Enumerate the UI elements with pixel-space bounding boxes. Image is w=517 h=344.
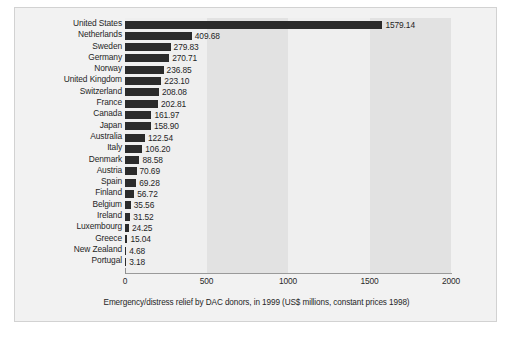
category-label: Canada	[93, 108, 122, 119]
figure-panel: United States1579.14Netherlands409.68Swe…	[14, 7, 497, 322]
bar-value-label: 270.71	[169, 54, 197, 62]
x-axis-line	[125, 273, 452, 274]
bar-with-value: 106.20	[125, 145, 170, 153]
bar-value-label: 56.72	[134, 190, 157, 198]
bar-value-label: 158.90	[151, 122, 179, 130]
bar-with-value: 31.52	[125, 213, 154, 221]
bar	[125, 43, 171, 51]
y-axis-tick	[125, 268, 126, 274]
category-label: Sweden	[92, 41, 122, 52]
bar-value-label: 35.56	[131, 201, 154, 209]
bar-value-label: 4.68	[126, 247, 145, 255]
bar-row: New Zealand4.68	[15, 245, 498, 256]
bar-row: Germany270.71	[15, 53, 498, 64]
bar-row: Portugal3.18	[15, 256, 498, 267]
bar	[125, 66, 164, 74]
bar	[125, 111, 151, 119]
bar-row: Spain69.28	[15, 177, 498, 188]
bar	[125, 190, 134, 198]
bar	[125, 54, 169, 62]
bar	[125, 167, 137, 175]
bar-value-label: 88.58	[139, 156, 162, 164]
bar-row: Belgium35.56	[15, 200, 498, 211]
category-label: Austria	[97, 165, 122, 176]
category-label: Denmark	[89, 154, 122, 165]
bar-with-value: 279.83	[125, 43, 199, 51]
bar	[125, 179, 136, 187]
bar-with-value: 158.90	[125, 122, 179, 130]
category-label: Greece	[95, 233, 122, 244]
bar-with-value: 69.28	[125, 179, 160, 187]
bar-value-label: 1579.14	[382, 21, 415, 29]
category-label: France	[97, 97, 122, 108]
bar-value-label: 106.20	[142, 145, 170, 153]
bar-with-value: 1579.14	[125, 21, 415, 29]
category-label: United Kingdom	[64, 74, 122, 85]
bar-row: Canada161.97	[15, 109, 498, 120]
bar-rows: United States1579.14Netherlands409.68Swe…	[15, 19, 498, 268]
bar-with-value: 202.81	[125, 100, 186, 108]
bar-value-label: 279.83	[171, 43, 199, 51]
bar	[125, 100, 158, 108]
bar	[125, 77, 161, 85]
bar-row: Italy106.20	[15, 143, 498, 154]
x-axis-tick-label: 2000	[442, 276, 460, 286]
bar-with-value: 270.71	[125, 54, 197, 62]
bar-row: Japan158.90	[15, 121, 498, 132]
bar-with-value: 70.69	[125, 167, 160, 175]
bar-value-label: 223.10	[161, 77, 189, 85]
category-label: Japan	[100, 120, 122, 131]
bar	[125, 88, 159, 96]
bar-value-label: 208.08	[159, 88, 187, 96]
bar-chart: United States1579.14Netherlands409.68Swe…	[15, 8, 498, 323]
chart-caption: Emergency/distress relief by DAC donors,…	[15, 298, 498, 307]
bar-value-label: 3.18	[126, 258, 145, 266]
bar	[125, 145, 142, 153]
bar-with-value: 409.68	[125, 32, 220, 40]
bar	[125, 134, 145, 142]
bar-value-label: 24.25	[129, 224, 152, 232]
bar-value-label: 31.52	[130, 213, 153, 221]
category-label: Italy	[107, 142, 122, 153]
bar-with-value: 208.08	[125, 88, 187, 96]
bar-value-label: 70.69	[137, 167, 160, 175]
bar-value-label: 409.68	[192, 32, 220, 40]
bar-row: Luxembourg24.25	[15, 222, 498, 233]
bar-value-label: 236.85	[164, 66, 192, 74]
category-label: Portugal	[92, 255, 122, 266]
category-label: United States	[73, 18, 122, 29]
bar-row: Switzerland208.08	[15, 87, 498, 98]
bar-row: Finland56.72	[15, 188, 498, 199]
category-label: Norway	[94, 63, 122, 74]
bar-with-value: 24.25	[125, 224, 152, 232]
x-axis-tick-label: 1500	[360, 276, 378, 286]
bar-with-value: 35.56	[125, 201, 154, 209]
category-label: Netherlands	[78, 29, 122, 40]
bar	[125, 156, 139, 164]
category-label: Germany	[88, 52, 122, 63]
bar-value-label: 122.54	[145, 134, 173, 142]
category-label: Ireland	[97, 210, 122, 221]
bar-with-value: 56.72	[125, 190, 158, 198]
x-axis-ticks: 0500100015002000	[15, 276, 498, 290]
x-axis-tick-label: 1000	[279, 276, 297, 286]
bar-row: Denmark88.58	[15, 155, 498, 166]
bar-row: Austria70.69	[15, 166, 498, 177]
bar-value-label: 161.97	[151, 111, 179, 119]
bar-value-label: 202.81	[158, 100, 186, 108]
bar	[125, 32, 192, 40]
category-label: Australia	[90, 131, 122, 142]
bar-with-value: 3.18	[125, 258, 145, 266]
bar-row: France202.81	[15, 98, 498, 109]
bar-row: Australia122.54	[15, 132, 498, 143]
bar-with-value: 88.58	[125, 156, 163, 164]
bar-row: Netherlands409.68	[15, 30, 498, 41]
x-axis-tick-label: 500	[200, 276, 214, 286]
bar-with-value: 15.04	[125, 235, 151, 243]
x-axis-tick-label: 0	[123, 276, 128, 286]
bar-value-label: 69.28	[136, 179, 159, 187]
category-label: Luxembourg	[76, 221, 122, 232]
bar	[125, 21, 382, 29]
bar-with-value: 223.10	[125, 77, 189, 85]
category-label: Switzerland	[80, 86, 122, 97]
